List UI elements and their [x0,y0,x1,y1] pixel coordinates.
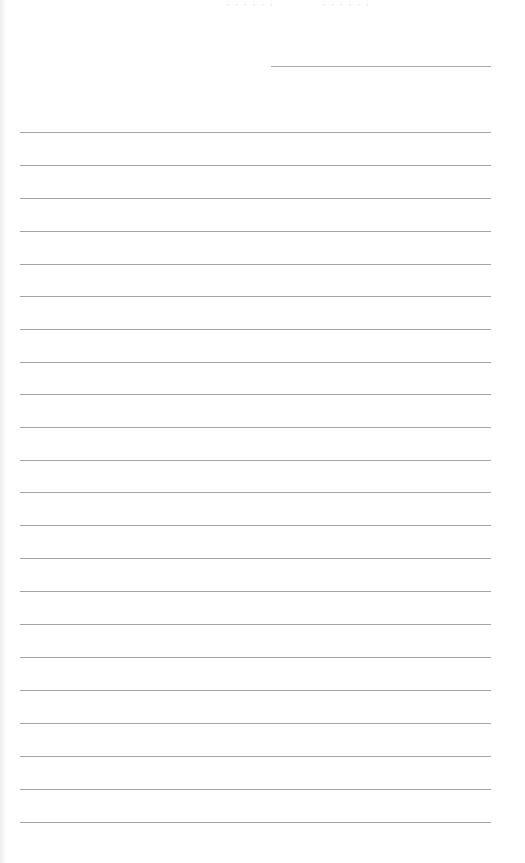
ruled-line-15[interactable] [20,591,491,592]
ruled-line-16[interactable] [20,624,491,625]
ruled-lines [0,0,525,863]
ruled-line-14[interactable] [20,558,491,559]
ruled-line-11[interactable] [20,460,491,461]
ruled-line-20[interactable] [20,756,491,757]
ruled-line-6[interactable] [20,296,491,297]
ruled-line-9[interactable] [20,394,491,395]
ruled-line-10[interactable] [20,427,491,428]
ruled-line-5[interactable] [20,264,491,265]
ruled-line-4[interactable] [20,231,491,232]
ruled-line-22[interactable] [20,822,491,823]
ruled-line-13[interactable] [20,525,491,526]
ruled-line-7[interactable] [20,329,491,330]
ruled-line-21[interactable] [20,789,491,790]
ruled-line-12[interactable] [20,492,491,493]
ruled-line-1[interactable] [20,132,491,133]
ruled-line-18[interactable] [20,690,491,691]
ruled-line-2[interactable] [20,165,491,166]
ruled-line-19[interactable] [20,723,491,724]
ruled-line-8[interactable] [20,362,491,363]
ruled-line-17[interactable] [20,657,491,658]
ruled-line-3[interactable] [20,198,491,199]
